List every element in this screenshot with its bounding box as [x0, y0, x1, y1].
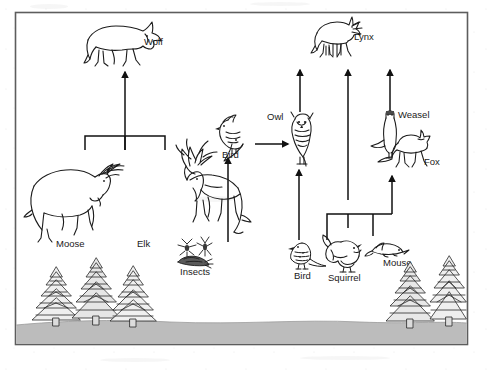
- owl-label: Owl: [267, 111, 283, 122]
- squirrel-label: Squirrel: [328, 272, 361, 283]
- insects-label: Insects: [180, 266, 210, 277]
- wolf-label: Wolf: [144, 36, 163, 47]
- ground-band: [16, 321, 466, 344]
- bird-top-label: Bird: [222, 149, 239, 160]
- bird-low-label: Bird: [294, 270, 311, 281]
- fox-label: Fox: [424, 156, 440, 167]
- weasel-label: Weasel: [398, 109, 430, 120]
- moose-label: Moose: [56, 238, 85, 249]
- food-web-figure: Wolf Lynx Owl: [0, 0, 487, 370]
- elk-label: Elk: [137, 238, 150, 249]
- lynx-label: Lynx: [354, 31, 374, 42]
